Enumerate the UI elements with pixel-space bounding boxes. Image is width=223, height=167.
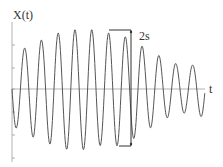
bracket-arrow-top: [130, 31, 132, 33]
x-axis-label: t: [209, 82, 213, 96]
y-axis-label: X(t): [13, 8, 33, 22]
waveform-chart: X(t) t 2s: [0, 0, 223, 167]
bracket-arrow-bottom: [130, 143, 132, 145]
bracket-label: 2s: [139, 29, 150, 43]
waveform-line: [12, 30, 205, 150]
